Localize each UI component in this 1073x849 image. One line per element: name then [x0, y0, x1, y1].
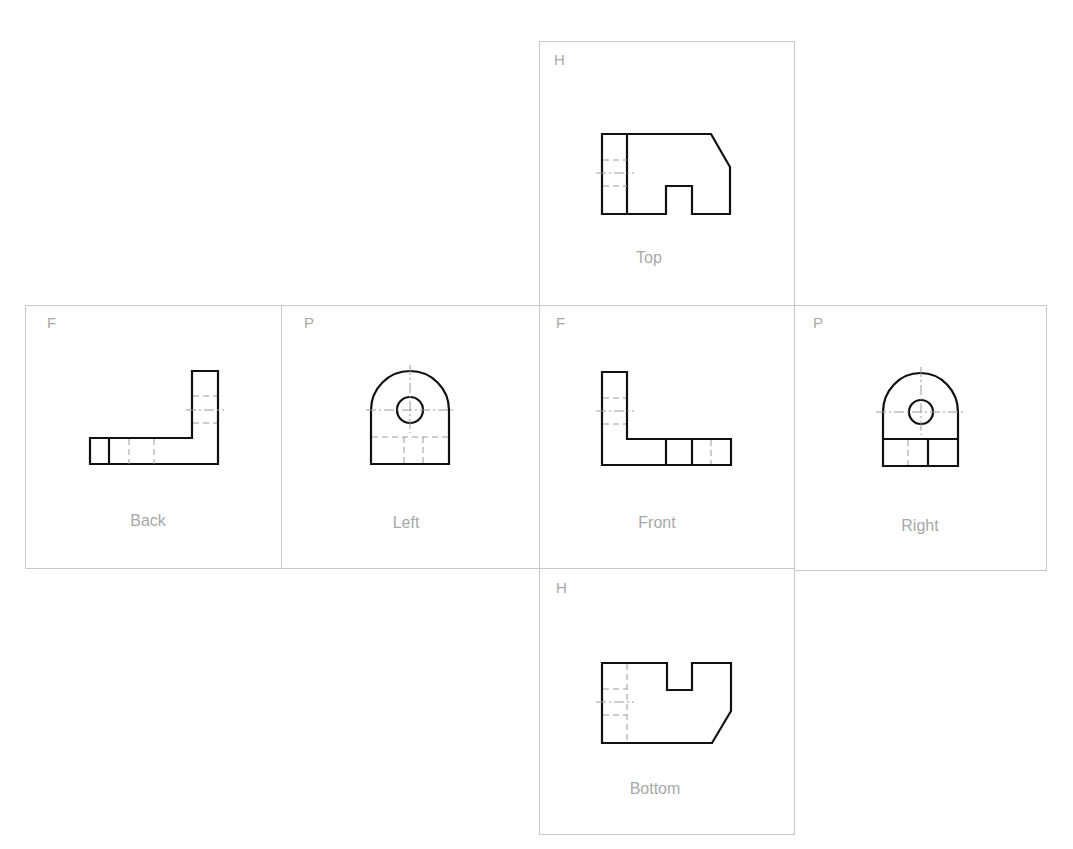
left-view-drawing	[366, 365, 453, 464]
bottom-view-drawing	[596, 663, 731, 743]
front-view-drawing	[596, 372, 731, 465]
drawing-canvas	[0, 0, 1073, 849]
right-view-drawing	[876, 367, 964, 466]
top-view-drawing	[596, 134, 730, 214]
back-view-drawing	[90, 371, 224, 464]
